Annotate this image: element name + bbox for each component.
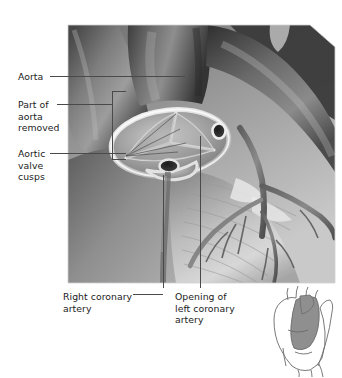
heart-inset-diagram [274,286,333,377]
illustration-canvas [0,0,342,378]
label-part-of-aorta-removed: Part of aorta removed [18,99,92,134]
main-illustration [68,25,335,283]
left-coronary-ostium [213,124,226,139]
label-aorta: Aorta [18,71,43,83]
label-opening-left-coronary-artery: Opening of left coronary artery [175,291,253,326]
aorta-shadow [196,28,199,96]
right-coronary-ostium [160,160,179,173]
label-aortic-valve-cusps: Aortic valve cusps [18,148,78,183]
label-right-coronary-artery: Right coronary artery [63,291,149,314]
anatomical-figure: Aorta Part of aorta removed Aortic valve… [0,0,342,378]
